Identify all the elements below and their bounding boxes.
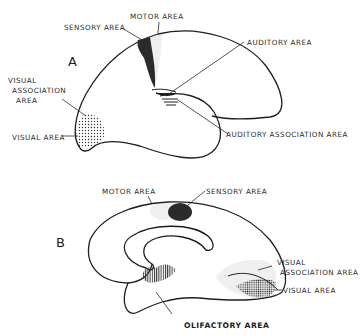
label-a-auditory-association-area: AUDITORY ASSOCIATION AREA — [226, 130, 348, 139]
label-a-sensory-area: SENSORY AREA — [64, 23, 125, 32]
label-b-visual-area: VISUAL AREA — [283, 286, 336, 295]
label-a-visual-area: VISUAL AREA — [12, 133, 65, 142]
brain-diagram: A B MOTOR AREA SENSORY AREA AUDITORY ARE… — [0, 0, 362, 336]
figure-b-letter: B — [56, 235, 65, 250]
label-a-visual-association-1: VISUAL — [8, 76, 37, 85]
figure-a-letter: A — [68, 54, 77, 69]
label-b-olfactory-area: OLIFACTORY AREA — [184, 321, 269, 330]
label-a-visual-association-3: AREA — [16, 96, 37, 105]
label-b-sensory-area: SENSORY AREA — [206, 187, 267, 196]
label-b-visual-association-2: ASSOCIATION AREA — [280, 268, 358, 277]
sensory-area-b — [168, 203, 192, 221]
label-a-auditory-area: AUDITORY AREA — [247, 38, 312, 47]
auditory-area-a — [152, 89, 178, 105]
label-a-motor-area: MOTOR AREA — [130, 12, 184, 21]
label-b-visual-association-1: VISUAL — [277, 258, 306, 267]
olfactory-area-b — [143, 264, 176, 282]
label-a-visual-association-2: ASSOCIATION — [12, 86, 66, 95]
label-b-motor-area: MOTOR AREA — [102, 187, 156, 196]
